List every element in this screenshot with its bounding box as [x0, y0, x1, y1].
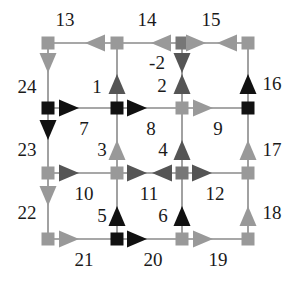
arrow-right-icon [193, 100, 213, 117]
edge-label: 17 [263, 139, 282, 160]
node-n23 [176, 233, 189, 246]
node-n12 [111, 167, 124, 180]
node-n32 [242, 167, 255, 180]
edge-label: 1 [92, 76, 102, 97]
arrow-up-icon [109, 206, 126, 226]
arrow-right-icon [127, 231, 147, 248]
edge-label: 13 [56, 9, 75, 30]
arrow-left-icon [151, 35, 171, 52]
node-n21 [176, 102, 189, 115]
node-n11 [111, 102, 124, 115]
arrow-down-icon [40, 186, 57, 206]
edge-label: 15 [202, 9, 221, 30]
arrow-down-icon [40, 120, 57, 140]
edge-lines [48, 43, 248, 239]
arrow-up-icon [174, 206, 191, 226]
edge-label: 9 [213, 118, 223, 139]
edge-label: 14 [138, 9, 158, 30]
edge-label: 2 [157, 75, 167, 96]
arrow-right-icon [193, 231, 213, 248]
arrow-right-icon [59, 165, 79, 182]
edge-label: 16 [263, 73, 282, 94]
node-n31 [242, 102, 255, 115]
arrow-up-icon [174, 140, 191, 160]
arrow-down-icon [174, 53, 191, 73]
arrow-right-icon [59, 100, 79, 117]
grid-nodes [42, 37, 255, 246]
node-n00 [42, 37, 55, 50]
node-n22 [176, 167, 189, 180]
edge-label: 3 [97, 139, 107, 160]
edge-label: 19 [209, 249, 228, 270]
edge-label: 18 [263, 202, 282, 223]
arrow-up-icon [109, 74, 126, 94]
arrow-right-icon [192, 165, 212, 182]
arrow-left-icon [85, 35, 105, 52]
node-n10 [111, 37, 124, 50]
edge-label: 21 [75, 249, 94, 270]
node-n02 [42, 167, 55, 180]
arrow-right-icon [59, 231, 79, 248]
arrow-up-icon [109, 140, 126, 160]
edge-label: 8 [146, 118, 156, 139]
edge-label: 22 [18, 202, 37, 223]
arrow-up-icon [174, 74, 191, 94]
node-n33 [242, 233, 255, 246]
arrow-left-icon [152, 165, 172, 182]
arrow-right-icon [127, 165, 147, 182]
edge-label: 11 [140, 183, 158, 204]
edge-label: 23 [18, 139, 37, 160]
edge-label: 4 [158, 139, 168, 160]
edge-label: 20 [144, 249, 163, 270]
node-n13 [111, 233, 124, 246]
arrow-up-icon [240, 74, 257, 94]
grid-network-diagram: 131415241-221678923341710111222561821201… [0, 0, 297, 289]
edge-label: 6 [158, 205, 168, 226]
node-n30 [242, 37, 255, 50]
arrow-right-icon [186, 35, 206, 52]
edge-label: 5 [97, 205, 107, 226]
arrow-down-icon [40, 53, 57, 73]
edge-label: -2 [149, 52, 165, 73]
node-n01 [42, 102, 55, 115]
arrow-left-icon [217, 35, 237, 52]
arrow-right-icon [127, 100, 147, 117]
edge-label: 24 [18, 76, 38, 97]
arrow-up-icon [240, 140, 257, 160]
edge-label: 12 [206, 183, 225, 204]
node-n03 [42, 233, 55, 246]
edge-label: 7 [79, 118, 89, 139]
arrow-up-icon [240, 206, 257, 226]
edge-label: 10 [75, 183, 94, 204]
direction-arrows [40, 35, 257, 248]
